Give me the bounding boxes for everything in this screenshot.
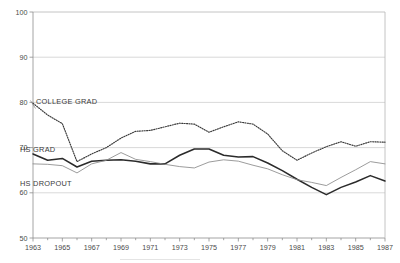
x-tick-label-1967: 1967 — [84, 243, 100, 252]
series-annotations-group: COLLEGE GRADHS GRADHS DROPOUT — [20, 97, 97, 188]
x-tick-label-1969: 1969 — [113, 243, 129, 252]
x-tick-label-1973: 1973 — [172, 243, 188, 252]
series-line-hs-grad — [33, 149, 385, 195]
data-series-group — [33, 103, 385, 194]
axis-frame-group — [33, 12, 385, 238]
x-tick-label-1965: 1965 — [54, 243, 70, 252]
x-tick-label-1981: 1981 — [289, 243, 305, 252]
y-axis-ticks-group: 5060708090100 — [16, 8, 34, 243]
series-label-college-grad: COLLEGE GRAD — [36, 97, 97, 106]
chart-canvas: 5060708090100 19631965196719691971197319… — [0, 0, 400, 263]
x-tick-label-1977: 1977 — [230, 243, 246, 252]
x-tick-label-1979: 1979 — [260, 243, 276, 252]
y-tick-label-60: 60 — [20, 188, 28, 197]
series-label-hs-dropout: HS DROPOUT — [20, 179, 72, 188]
x-tick-label-1963: 1963 — [25, 243, 41, 252]
y-tick-label-100: 100 — [16, 8, 28, 17]
x-tick-label-1983: 1983 — [318, 243, 334, 252]
x-tick-label-1975: 1975 — [201, 243, 217, 252]
x-tick-label-1971: 1971 — [142, 243, 158, 252]
y-tick-label-80: 80 — [20, 98, 28, 107]
x-tick-label-1985: 1985 — [348, 243, 364, 252]
series-label-hs-grad: HS GRAD — [20, 145, 55, 154]
x-tick-label-1987: 1987 — [377, 243, 393, 252]
x-axis-ticks-group: 1963196519671969197119731975197719791981… — [25, 238, 393, 252]
series-line-college-grad — [33, 103, 385, 161]
y-tick-label-90: 90 — [20, 53, 28, 62]
line-chart: 5060708090100 19631965196719691971197319… — [0, 0, 400, 263]
y-tick-label-50: 50 — [20, 234, 28, 243]
